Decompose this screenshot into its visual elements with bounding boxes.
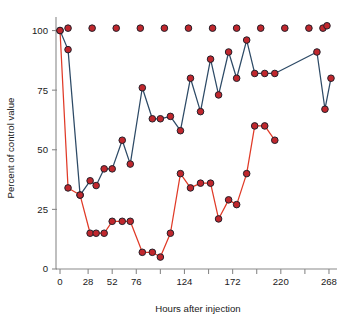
data-markers-group (57, 22, 335, 260)
x-tick-label-0: 0 (57, 276, 62, 287)
data-point (314, 49, 321, 56)
data-point (261, 70, 268, 77)
data-point (207, 56, 214, 63)
data-point (101, 230, 108, 237)
data-point (233, 25, 240, 32)
data-point (215, 216, 222, 223)
data-point (207, 180, 214, 187)
data-point (139, 249, 146, 256)
data-point (149, 249, 156, 256)
data-point (87, 177, 94, 184)
data-point (257, 25, 264, 32)
data-point (93, 182, 100, 189)
data-point (65, 25, 72, 32)
data-point (322, 106, 329, 113)
data-point (65, 185, 72, 192)
data-point (161, 25, 168, 32)
data-point (77, 192, 84, 199)
data-point (167, 113, 174, 120)
data-point (261, 123, 268, 130)
data-point (119, 137, 126, 144)
y-tick-label-0: 0 (43, 263, 48, 274)
data-point (167, 230, 174, 237)
data-point (127, 161, 134, 168)
data-point (93, 230, 100, 237)
x-tick-label-76: 76 (131, 276, 142, 287)
data-point (251, 123, 258, 130)
data-point (137, 25, 144, 32)
series-line-1 (60, 31, 331, 196)
data-point (65, 46, 72, 53)
data-point (177, 170, 184, 177)
chart-plot-svg: 02550751000285276124172220268 Percent of… (0, 0, 344, 321)
data-point (197, 108, 204, 115)
data-point (271, 137, 278, 144)
data-point (233, 201, 240, 208)
data-point (109, 166, 116, 173)
x-axis-title: Hours after injection (155, 303, 240, 314)
data-point (251, 70, 258, 77)
data-point (225, 197, 232, 204)
data-point (187, 75, 194, 82)
data-point (185, 25, 192, 32)
data-point (101, 166, 108, 173)
data-point (89, 25, 96, 32)
data-series-group (60, 31, 331, 258)
x-tick-label-268: 268 (321, 276, 337, 287)
x-tick-label-52: 52 (107, 276, 118, 287)
data-point (109, 218, 116, 225)
data-point (157, 254, 164, 261)
data-point (243, 170, 250, 177)
x-tick-label-220: 220 (273, 276, 289, 287)
data-point (328, 75, 335, 82)
x-tick-label-124: 124 (176, 276, 193, 287)
data-point (215, 92, 222, 99)
axis-tick-labels-group: 02550751000285276124172220268 (32, 25, 337, 287)
data-point (306, 25, 313, 32)
data-point (197, 180, 204, 187)
y-axis-title: Percent of control value (5, 98, 16, 199)
data-point (139, 84, 146, 91)
y-tick-label-25: 25 (37, 204, 48, 215)
y-tick-label-100: 100 (32, 25, 48, 36)
y-tick-label-75: 75 (37, 85, 48, 96)
data-point (57, 27, 64, 34)
data-point (113, 25, 120, 32)
y-tick-label-50: 50 (37, 144, 48, 155)
series-line-2 (60, 31, 275, 258)
data-point (282, 25, 289, 32)
data-point (243, 37, 250, 44)
data-point (209, 25, 216, 32)
data-point (157, 115, 164, 122)
x-tick-label-172: 172 (225, 276, 241, 287)
data-point (119, 218, 126, 225)
chart-container: 02550751000285276124172220268 Percent of… (0, 0, 344, 321)
data-point (233, 75, 240, 82)
x-tick-label-28: 28 (83, 276, 94, 287)
data-point (127, 218, 134, 225)
data-point (324, 22, 331, 29)
data-point (187, 185, 194, 192)
data-point (149, 115, 156, 122)
data-point (177, 127, 184, 134)
data-point (271, 70, 278, 77)
data-point (225, 49, 232, 56)
